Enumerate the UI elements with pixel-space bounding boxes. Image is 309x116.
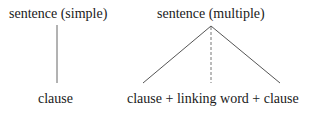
left-branch-line: [143, 26, 211, 83]
tree-connectors: [0, 0, 309, 116]
right-branch-line: [211, 26, 280, 83]
